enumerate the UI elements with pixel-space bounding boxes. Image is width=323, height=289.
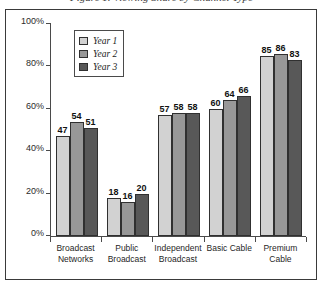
bar-value-label: 83 <box>289 49 299 59</box>
bar[interactable] <box>209 109 223 236</box>
y-tick-label: 40% <box>26 144 44 153</box>
bar-value-label: 18 <box>108 187 118 197</box>
category-label: PublicBroadcast <box>101 243 152 265</box>
x-tick-mark <box>101 237 102 242</box>
bar-column: 60 <box>209 24 223 236</box>
category-label-line: Networks <box>51 254 100 265</box>
x-axis-labels: BroadcastNetworksPublicBroadcastIndepend… <box>50 243 306 265</box>
bar-value-label: 86 <box>275 43 285 53</box>
category-label-line: Broadcast <box>51 243 100 254</box>
x-tick-mark <box>152 237 153 242</box>
bar-group: 575858 <box>153 24 204 236</box>
chart-area: 100%80%60%40%20%0% 475451181620575858606… <box>6 10 316 279</box>
bar[interactable] <box>288 60 302 236</box>
category-label: IndependentBroadcast <box>152 243 203 265</box>
bar-value-label: 66 <box>238 85 248 95</box>
bar[interactable] <box>186 113 200 236</box>
legend-swatch-icon <box>79 50 88 58</box>
y-tick-label: 20% <box>26 187 44 196</box>
bar[interactable] <box>260 56 274 236</box>
bar-value-label: 51 <box>85 117 95 127</box>
legend-label: Year 2 <box>93 49 117 59</box>
bar-column: 64 <box>223 24 237 236</box>
legend-label: Year 3 <box>93 62 117 72</box>
bar-value-label: 58 <box>187 102 197 112</box>
x-tick-mark <box>306 237 307 242</box>
bar[interactable] <box>158 115 172 236</box>
y-tick-label: 0% <box>31 229 44 238</box>
category-label-line: Premium <box>256 243 305 254</box>
chart-legend: Year 1Year 2Year 3 <box>74 30 124 77</box>
bar[interactable] <box>274 54 288 236</box>
bar-column: 47 <box>56 24 70 236</box>
bar[interactable] <box>84 128 98 236</box>
bar[interactable] <box>223 100 237 236</box>
bar-value-label: 54 <box>71 111 81 121</box>
bar[interactable] <box>121 202 135 236</box>
x-tick-mark <box>255 237 256 242</box>
bar-value-label: 85 <box>261 45 271 55</box>
bar-value-label: 47 <box>57 125 67 135</box>
bar-value-label: 58 <box>173 102 183 112</box>
category-label-line: Broadcast <box>102 254 151 265</box>
legend-item[interactable]: Year 2 <box>79 47 117 60</box>
y-tick-label: 60% <box>26 102 44 111</box>
legend-swatch-icon <box>79 63 88 71</box>
bar-value-label: 57 <box>159 104 169 114</box>
bar[interactable] <box>135 194 149 236</box>
chart-title: Figure 1. Viewing Share by Channel Type <box>0 0 323 5</box>
bar-group: 858683 <box>255 24 306 236</box>
bar[interactable] <box>56 136 70 236</box>
bar-column: 86 <box>274 24 288 236</box>
category-label-line: Public <box>102 243 151 254</box>
chart-frame: 100%80%60%40%20%0% 475451181620575858606… <box>5 9 317 280</box>
x-tick-mark <box>50 237 51 242</box>
y-tick-label: 100% <box>21 17 44 26</box>
category-label-line: Cable <box>256 254 305 265</box>
bar-column: 20 <box>135 24 149 236</box>
bar-column: 57 <box>158 24 172 236</box>
bar-value-label: 16 <box>122 191 132 201</box>
x-axis-ticks <box>50 237 306 242</box>
legend-label: Year 1 <box>93 36 117 46</box>
category-label-line: Broadcast <box>153 254 202 265</box>
category-label-line: Independent <box>153 243 202 254</box>
bar[interactable] <box>107 198 121 236</box>
bar-column: 58 <box>186 24 200 236</box>
bar[interactable] <box>172 113 186 236</box>
bar-value-label: 60 <box>210 98 220 108</box>
bar-group: 606466 <box>204 24 255 236</box>
y-tick-label: 80% <box>26 59 44 68</box>
legend-swatch-icon <box>79 37 88 45</box>
bar-column: 58 <box>172 24 186 236</box>
bar[interactable] <box>70 122 84 236</box>
bar-value-label: 20 <box>136 183 146 193</box>
legend-item[interactable]: Year 1 <box>79 34 117 47</box>
category-label: Basic Cable <box>204 243 255 265</box>
bar-value-label: 64 <box>224 89 234 99</box>
bar-column: 85 <box>260 24 274 236</box>
category-label: PremiumCable <box>255 243 306 265</box>
bar-column: 83 <box>288 24 302 236</box>
category-label: BroadcastNetworks <box>50 243 101 265</box>
bar[interactable] <box>237 96 251 236</box>
category-label-line: Basic Cable <box>205 243 254 254</box>
legend-item[interactable]: Year 3 <box>79 60 117 73</box>
x-tick-mark <box>204 237 205 242</box>
bar-column: 66 <box>237 24 251 236</box>
